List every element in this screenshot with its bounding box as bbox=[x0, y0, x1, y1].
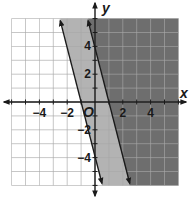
x-tick-label: −2 bbox=[60, 106, 74, 120]
y-tick-label: −4 bbox=[77, 151, 91, 165]
origin-label: O bbox=[83, 104, 94, 120]
inequality-graph: −4−22442−2−4Oxy bbox=[0, 0, 189, 199]
y-axis-label: y bbox=[101, 0, 111, 16]
y-tick-label: 4 bbox=[84, 39, 91, 53]
x-tick-label: −4 bbox=[33, 106, 47, 120]
x-axis-label: x bbox=[179, 85, 189, 101]
x-tick-label: 2 bbox=[119, 106, 126, 120]
y-tick-label: 2 bbox=[84, 67, 91, 81]
y-tick-label: −2 bbox=[77, 123, 91, 137]
x-tick-label: 4 bbox=[147, 106, 154, 120]
